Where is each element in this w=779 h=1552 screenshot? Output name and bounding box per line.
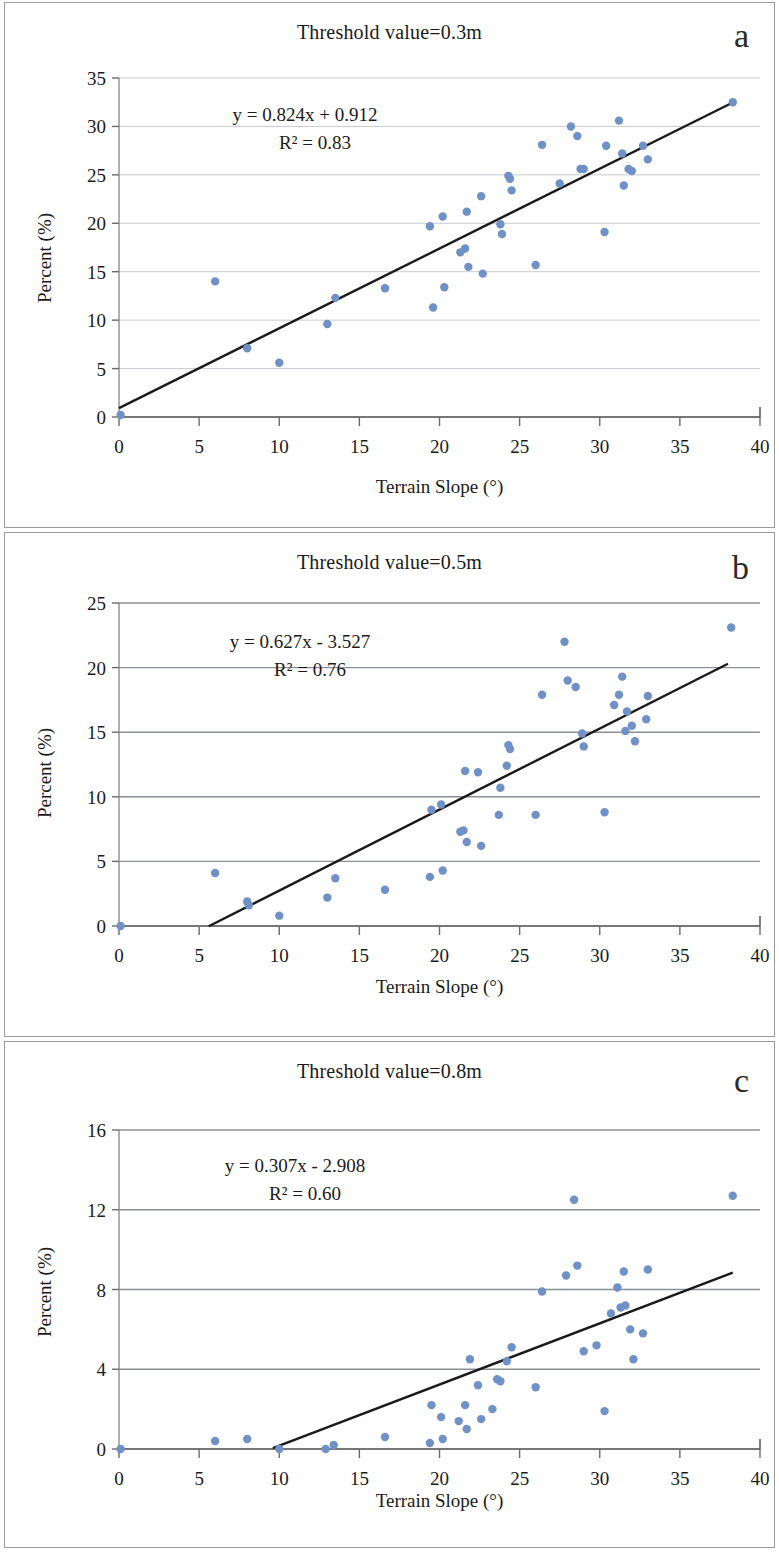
scatter-point (474, 1381, 482, 1389)
x-tick-label: 40 (751, 945, 770, 966)
scatter-point (496, 784, 504, 792)
scatter-point (503, 762, 511, 770)
scatter-point (538, 691, 546, 699)
scatter-point (323, 894, 331, 902)
scatter-point (573, 1261, 581, 1269)
scatter-point (275, 1444, 283, 1452)
scatter-point (578, 730, 586, 738)
panel-b-svg: 05101520250510152025303540y = 0.627x - 3… (5, 533, 779, 1038)
scatter-point (459, 827, 467, 835)
x-tick-label: 20 (430, 436, 449, 457)
x-tick-label: 25 (510, 945, 529, 966)
y-tick-label: 12 (87, 1199, 106, 1220)
y-tick-label: 0 (97, 407, 107, 428)
panel-b-plot: 05101520250510152025303540y = 0.627x - 3… (5, 533, 774, 1035)
scatter-point (507, 186, 515, 194)
scatter-point (466, 1355, 474, 1363)
scatter-point (323, 320, 331, 328)
scatter-point (474, 768, 482, 776)
regression-equation: y = 0.627x - 3.527 (230, 631, 371, 652)
x-tick-label: 10 (270, 436, 289, 457)
scatter-point (437, 1413, 445, 1421)
y-tick-label: 20 (87, 658, 106, 679)
y-tick-label: 0 (97, 916, 107, 937)
scatter-point (477, 842, 485, 850)
scatter-point (426, 222, 434, 230)
scatter-point (580, 165, 588, 173)
scatter-point (426, 1438, 434, 1446)
scatter-point (613, 1283, 621, 1291)
scatter-point (245, 901, 253, 909)
y-tick-label: 5 (97, 852, 107, 873)
scatter-point (381, 1432, 389, 1440)
panel-c-svg: 04812160510152025303540y = 0.307x - 2.90… (5, 1042, 779, 1550)
y-tick-label: 35 (87, 68, 106, 89)
panel-c: Threshold value=0.8m c 04812160510152025… (4, 1041, 775, 1548)
x-tick-label: 20 (430, 1468, 449, 1489)
scatter-point (573, 132, 581, 140)
scatter-point (427, 1401, 435, 1409)
scatter-point (620, 1267, 628, 1275)
scatter-point (506, 745, 514, 753)
scatter-point (429, 303, 437, 311)
x-tick-label: 30 (590, 945, 609, 966)
y-tick-label: 5 (97, 359, 107, 380)
r-squared-label: R² = 0.60 (269, 1183, 341, 1204)
scatter-point (531, 261, 539, 269)
scatter-point (477, 192, 485, 200)
x-tick-label: 30 (590, 436, 609, 457)
scatter-point (461, 767, 469, 775)
scatter-point (618, 673, 626, 681)
scatter-point (496, 1377, 504, 1385)
scatter-point (496, 220, 504, 228)
x-tick-label: 40 (751, 436, 770, 457)
scatter-point (629, 1355, 637, 1363)
x-tick-label: 0 (114, 436, 124, 457)
y-axis-title: Percent (%) (34, 213, 56, 303)
scatter-point (610, 701, 618, 709)
scatter-point (642, 715, 650, 723)
x-tick-label: 35 (670, 1468, 689, 1489)
trend-line (209, 664, 728, 926)
scatter-point (455, 1417, 463, 1425)
scatter-point (461, 244, 469, 252)
scatter-point (463, 838, 471, 846)
figure-container: Threshold value=0.3m a 05101520253035051… (0, 0, 779, 1552)
scatter-point (538, 1287, 546, 1295)
scatter-point (615, 691, 623, 699)
scatter-point (562, 1271, 570, 1279)
scatter-point (477, 1415, 485, 1423)
scatter-point (602, 142, 610, 150)
scatter-point (531, 811, 539, 819)
scatter-point (628, 167, 636, 175)
scatter-point (620, 181, 628, 189)
x-axis-title: Terrain Slope (°) (376, 476, 504, 498)
y-axis-title: Percent (%) (34, 1247, 56, 1337)
scatter-point (464, 263, 472, 271)
scatter-point (381, 284, 389, 292)
scatter-point (381, 886, 389, 894)
x-tick-label: 20 (430, 945, 449, 966)
scatter-point (479, 269, 487, 277)
scatter-point (560, 638, 568, 646)
regression-equation: y = 0.824x + 0.912 (233, 104, 378, 125)
scatter-point (507, 1343, 515, 1351)
scatter-point (488, 1405, 496, 1413)
x-axis-title: Terrain Slope (°) (376, 1490, 504, 1512)
scatter-point (427, 806, 435, 814)
panel-a-svg: 051015202530350510152025303540y = 0.824x… (5, 3, 779, 530)
y-tick-label: 0 (97, 1439, 107, 1460)
scatter-point (463, 207, 471, 215)
y-tick-label: 25 (87, 165, 106, 186)
scatter-point (626, 1325, 634, 1333)
x-tick-label: 10 (270, 1468, 289, 1489)
r-squared-label: R² = 0.76 (274, 659, 346, 680)
scatter-point (729, 1191, 737, 1199)
scatter-point (503, 1357, 511, 1365)
scatter-point (631, 737, 639, 745)
scatter-point (116, 1444, 124, 1452)
x-tick-label: 30 (590, 1468, 609, 1489)
scatter-point (243, 344, 251, 352)
x-tick-label: 15 (350, 1468, 369, 1489)
scatter-point (275, 359, 283, 367)
